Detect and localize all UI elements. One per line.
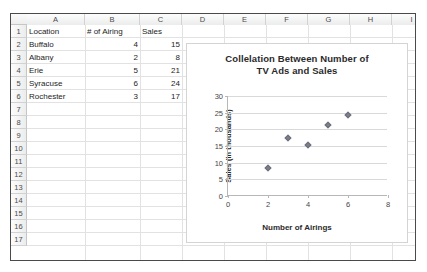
- x-tick-label: 6: [346, 200, 350, 209]
- data-point-marker[interactable]: [284, 135, 291, 142]
- column-header-d[interactable]: D: [182, 14, 224, 25]
- row-header-2[interactable]: 2: [11, 38, 27, 51]
- y-tick-mark: [225, 129, 228, 130]
- plot-area[interactable]: 05101520253002468: [227, 96, 387, 196]
- y-tick-mark: [225, 146, 228, 147]
- row-header-14[interactable]: 14: [11, 194, 27, 207]
- gridline-y: [228, 129, 387, 130]
- y-tick-mark: [225, 163, 228, 164]
- column-header-b[interactable]: B: [85, 14, 140, 25]
- column-header-c[interactable]: C: [140, 14, 182, 25]
- row-header-7[interactable]: 7: [11, 103, 27, 116]
- x-tick-mark: [308, 195, 309, 198]
- row-header-12[interactable]: 12: [11, 168, 27, 181]
- data-point-marker[interactable]: [324, 121, 331, 128]
- data-point-marker[interactable]: [304, 141, 311, 148]
- row-header-9[interactable]: 9: [11, 129, 27, 142]
- row-header-1[interactable]: 1: [11, 25, 27, 38]
- cell-b5-airings[interactable]: 6: [85, 77, 140, 90]
- gridline-y: [228, 179, 387, 180]
- x-tick-mark: [348, 195, 349, 198]
- y-tick-label: 25: [215, 108, 223, 117]
- spreadsheet-app: ABCDEFGHI1234567891011121314151617Locati…: [0, 0, 427, 272]
- row-header-6[interactable]: 6: [11, 90, 27, 103]
- row-header-5[interactable]: 5: [11, 77, 27, 90]
- y-tick-label: 10: [215, 158, 223, 167]
- data-point-marker[interactable]: [264, 165, 271, 172]
- chart-title: Collelation Between Number of TV Ads and…: [195, 53, 399, 77]
- cell-a1-location-header[interactable]: Location: [27, 25, 85, 38]
- row-header-16[interactable]: 16: [11, 220, 27, 233]
- row-header-8[interactable]: 8: [11, 116, 27, 129]
- x-tick-label: 8: [386, 200, 390, 209]
- row-header-13[interactable]: 13: [11, 181, 27, 194]
- cell-c1-sales-header[interactable]: Sales: [140, 25, 182, 38]
- row-header-4[interactable]: 4: [11, 64, 27, 77]
- cell-c4-sales[interactable]: 21: [140, 64, 182, 77]
- cell-b2-airings[interactable]: 4: [85, 38, 140, 51]
- row-header-15[interactable]: 15: [11, 207, 27, 220]
- cell-b3-airings[interactable]: 2: [85, 51, 140, 64]
- cell-a5-location[interactable]: Syracuse: [27, 77, 85, 90]
- y-tick-label: 20: [215, 125, 223, 134]
- y-tick-label: 5: [219, 175, 223, 184]
- gridline-y: [228, 113, 387, 114]
- y-tick-label: 30: [215, 92, 223, 101]
- column-header-h[interactable]: H: [350, 14, 392, 25]
- cell-a3-location[interactable]: Albany: [27, 51, 85, 64]
- cell-a4-location[interactable]: Erie: [27, 64, 85, 77]
- cell-b4-airings[interactable]: 5: [85, 64, 140, 77]
- x-tick-label: 2: [266, 200, 270, 209]
- x-tick-mark: [388, 195, 389, 198]
- column-header-e[interactable]: E: [224, 14, 266, 25]
- cell-b6-airings[interactable]: 3: [85, 90, 140, 103]
- cell-a2-location[interactable]: Buffalo: [27, 38, 85, 51]
- scatter-chart[interactable]: Collelation Between Number of TV Ads and…: [186, 43, 408, 243]
- worksheet[interactable]: ABCDEFGHI1234567891011121314151617Locati…: [10, 13, 416, 261]
- x-tick-label: 0: [226, 200, 230, 209]
- y-tick-mark: [225, 96, 228, 97]
- grid-vline: [182, 25, 183, 260]
- x-axis-title: Number of Airings: [187, 223, 407, 232]
- x-tick-mark: [228, 195, 229, 198]
- gridline-y: [228, 96, 387, 97]
- chart-title-line2: TV Ads and Sales: [257, 65, 338, 76]
- column-header-i[interactable]: I: [392, 14, 416, 25]
- cell-c6-sales[interactable]: 17: [140, 90, 182, 103]
- cell-b1-airings-header[interactable]: # of Airing: [85, 25, 140, 38]
- row-header-10[interactable]: 10: [11, 142, 27, 155]
- y-tick-label: 0: [219, 192, 223, 201]
- cell-a6-location[interactable]: Rochester: [27, 90, 85, 103]
- x-tick-label: 4: [306, 200, 310, 209]
- y-tick-label: 15: [215, 142, 223, 151]
- column-header-a[interactable]: A: [27, 14, 85, 25]
- cell-c2-sales[interactable]: 15: [140, 38, 182, 51]
- cell-c5-sales[interactable]: 24: [140, 77, 182, 90]
- cell-c3-sales[interactable]: 8: [140, 51, 182, 64]
- row-header-11[interactable]: 11: [11, 155, 27, 168]
- y-tick-mark: [225, 113, 228, 114]
- column-header-g[interactable]: G: [308, 14, 350, 25]
- gridline-y: [228, 163, 387, 164]
- x-tick-mark: [268, 195, 269, 198]
- row-header-3[interactable]: 3: [11, 51, 27, 64]
- y-tick-mark: [225, 179, 228, 180]
- row-header-17[interactable]: 17: [11, 233, 27, 246]
- column-header-f[interactable]: F: [266, 14, 308, 25]
- chart-title-line1: Collelation Between Number of: [225, 53, 368, 64]
